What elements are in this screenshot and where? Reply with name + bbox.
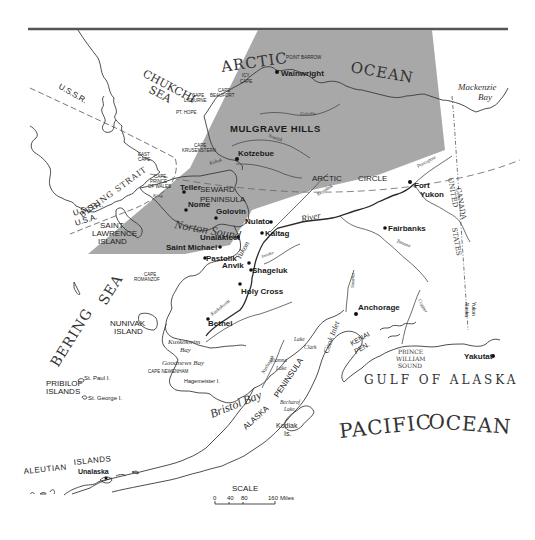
label-prince-william-2: WILLIAM [396,355,425,362]
label-river-copper: Copper [417,298,428,314]
label-united: UNITED [446,177,459,208]
label-cape-krusenstern-2: KRUSENSTERN [182,148,216,153]
label-pt-hope: PT. HOPE [176,110,197,115]
label-kodiak: Kodiak [276,422,298,429]
scale-tick-40: 40 [227,495,234,501]
label-saint-lawrence-3: ISLAND [98,237,127,246]
label-st-paul: St. Paul I. [84,375,110,381]
label-bering-sea: SEA [95,271,126,307]
label-point-barrow: POINT BARROW [286,55,322,60]
label-lake-clark: Lake [293,336,305,342]
label-city-bethel: Bethel [208,319,232,328]
label-lake-iliamna-2: Lake [275,365,287,371]
scale-tick-80: 80 [241,495,248,501]
prince-william-sound-islands [380,322,416,338]
label-prince-william: PRINCE [398,348,423,355]
label-city-anchorage: Anchorage [358,303,400,312]
copper-river [402,290,420,344]
label-arctic-circle-2: CIRCLE [358,174,387,183]
label-mackenzie: Mackenzie [457,82,496,92]
label-city-shageluk: Shageluk [252,266,288,275]
label-hagemeister: Hagemeister I. [184,378,220,384]
alaska-peninsula-south [112,390,310,492]
label-city-unalaska: Unalaska [78,468,109,475]
label-cape-romanzof-2: ROMANZOF [134,277,160,282]
label-gulf-of-alaska: GULF OF ALASKA [364,373,518,387]
label-mulgrave-hills: MULGRAVE HILLS [230,123,321,134]
label-mackenzie-bay: Bay [478,92,492,102]
label-pacific-ocean: OCEAN [428,409,513,439]
label-cape-lisburne-2: LISBURNE [184,98,207,103]
label-river-colville: Colville [300,111,317,116]
label-city-fairbanks: Fairbanks [388,224,426,233]
label-kuskokwim-bay: Kuskokwim [167,338,200,346]
label-city-nulato: Nulato [245,217,270,226]
label-city-nome: Nome [188,200,211,209]
label-city-yukon: Yukon [420,190,444,199]
label-city-unalakleet: Unalakleet [200,233,240,242]
label-river-river: River [299,210,322,224]
label-nunivak-island: ISLAND [114,327,143,336]
label-arctic-circle-1: ARCTIC [312,174,342,183]
alaska-map: ARCTIC OCEAN CHUKCHI SEA BERING SEA PACI… [0,0,535,540]
label-icy-cape: ICY [242,73,250,78]
label-river-yukon: Yukon [234,240,251,261]
label-east-cape-2: CAPE [138,157,150,162]
label-river-tanana: Tanana [396,238,412,248]
label-kuskokwim-bay-2: Bay [180,346,192,354]
label-goodnews-bay: Goodnews Bay [162,359,205,367]
label-alaska-state: Alaska [464,302,470,317]
label-cape-pow-3: OF WALES [148,184,171,189]
label-river-innoko: Innoko [260,250,275,260]
st-george-island [82,396,87,399]
label-river-susitna: Susitna [350,273,356,288]
label-states: STATES [450,227,463,256]
label-city-golovin: Golovin [216,207,246,216]
label-lake-clark-2: Clark [304,344,317,350]
label-city-kaltag: Kaltag [265,229,290,238]
st-matthew-island [74,282,80,295]
label-kodiak-is: Is. [284,430,291,437]
label-yukon-territory: Yukon [471,302,477,316]
scale-tick-0: 0 [213,495,217,501]
label-seward: SEWARD [200,185,235,194]
label-alaska-peninsula-1: ALASKA [241,404,271,432]
label-bering: BERING [47,305,96,369]
label-river-king: King [152,193,163,198]
scale-bar: SCALE 0 40 80 160 Miles [213,484,294,504]
scale-tick-160: 160 [268,495,279,501]
label-st-george: St. George I. [88,395,122,401]
scale-line [215,501,275,504]
label-cape-beaufort-2: BEAUFORT [210,93,235,98]
label-ussr: U.S.S.R. [57,82,88,105]
label-lake-becharof: Becharof [280,399,301,405]
label-city-kotzebue: Kotzebue [238,149,275,158]
scale-title: SCALE [232,484,258,493]
label-city-yakutat: Yakutat [464,352,493,361]
label-prince-william-3: SOUND [398,362,422,369]
label-pacific: PACIFIC [338,409,433,443]
label-aleutian: ALEUTIAN [23,463,67,476]
label-city-fort: Fort [414,181,430,190]
label-lake-iliamna: Iliamna [269,357,287,363]
label-city-saint-michael: Saint Michael [166,243,217,252]
label-lake-becharof-2: Lake [283,406,295,412]
label-river-kuskokwim: Kuskokwim [209,298,231,317]
siberia-coastline [30,30,160,212]
label-icy-cape-2: CAPE [240,79,252,84]
label-aleutian-islands: ISLANDS [73,454,111,467]
label-city-teller: Teller [180,183,201,192]
scale-unit: Miles [280,495,294,501]
label-city-wainwright: Wainwright [281,69,324,78]
label-pribilof-islands: ISLANDS [46,387,80,396]
label-cape-newenham: CAPE NEWENHAM [148,369,189,374]
label-city-anvik: Anvik [222,261,244,270]
label-city-holy-cross: Holy Cross [241,287,284,296]
label-cook-inlet: Cook Inlet [321,319,341,354]
